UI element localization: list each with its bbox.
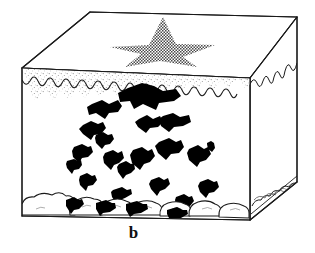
figure-caption-label: b xyxy=(0,224,291,241)
block-diagram-figure: b xyxy=(0,0,315,253)
block-diagram-svg xyxy=(0,0,315,253)
front-face xyxy=(22,68,250,220)
top-face xyxy=(22,12,297,78)
